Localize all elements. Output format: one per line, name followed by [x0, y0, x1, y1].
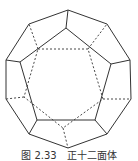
visible-spoke — [66, 10, 68, 28]
hidden-spoke — [63, 128, 68, 148]
visible-spoke — [29, 120, 37, 134]
hidden-edges — [6, 24, 131, 148]
hidden-spoke — [29, 24, 38, 49]
hidden-spoke — [6, 97, 24, 99]
visible-edges — [6, 10, 131, 148]
dodecahedron-figure — [0, 0, 138, 161]
hidden-spoke — [88, 24, 107, 49]
visible-spoke — [95, 120, 107, 134]
front-pentagon — [20, 28, 111, 120]
figure-caption: 图 2.33 正十二面体 — [0, 150, 138, 161]
visible-spoke — [111, 60, 130, 64]
visible-spoke — [6, 60, 20, 62]
